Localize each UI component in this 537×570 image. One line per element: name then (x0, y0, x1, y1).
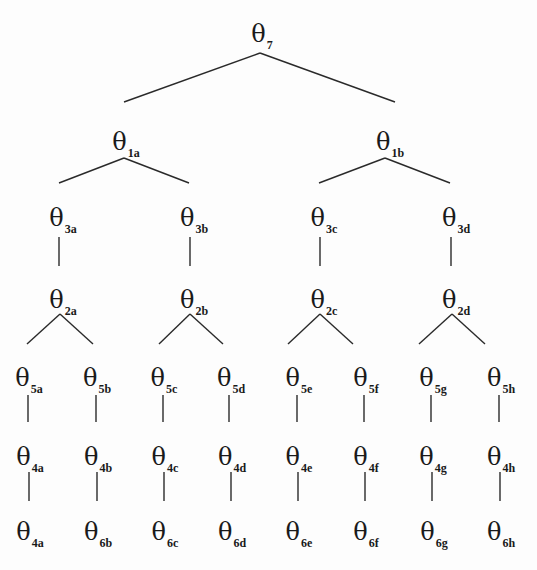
node-n4c: θ4c (152, 445, 179, 469)
node-n6d: θ6d (218, 520, 246, 544)
node-subscript: 4d (233, 461, 246, 475)
node-subscript: 5c (166, 382, 177, 396)
edge-n2c-n5f (320, 314, 353, 344)
edge-n1a-n3a (59, 158, 124, 183)
node-n6e: θ6e (286, 520, 313, 544)
node-symbol: θ (376, 128, 390, 156)
node-subscript: 3d (457, 222, 470, 236)
node-symbol: θ (442, 204, 456, 232)
node-n1a: θ1a (112, 130, 139, 154)
node-n6a: θ4a (16, 520, 43, 544)
node-subscript: 5f (369, 382, 379, 396)
node-symbol: θ (311, 286, 325, 314)
node-symbol: θ (353, 518, 367, 546)
node-n3d: θ3d (442, 206, 470, 230)
node-n7: θ7 (251, 22, 272, 46)
node-subscript: 3a (65, 222, 77, 236)
node-subscript: 7 (267, 38, 273, 52)
node-n5e: θ5e (286, 366, 313, 390)
edge-n2a-n5a (27, 314, 60, 344)
edge-n2a-n5b (60, 314, 93, 344)
node-n3c: θ3c (311, 206, 338, 230)
node-n1b: θ1b (376, 130, 404, 154)
node-symbol: θ (180, 286, 194, 314)
node-symbol: θ (487, 364, 501, 392)
node-symbol: θ (286, 364, 300, 392)
node-n2a: θ2a (49, 288, 76, 312)
edge-layer (0, 0, 537, 570)
node-symbol: θ (217, 364, 231, 392)
node-n5h: θ5h (487, 366, 515, 390)
node-n4a: θ4a (16, 445, 43, 469)
node-symbol: θ (487, 443, 501, 471)
node-n5d: θ5d (217, 366, 245, 390)
edge-n7-n1a (124, 53, 260, 102)
node-symbol: θ (442, 286, 456, 314)
node-symbol: θ (251, 20, 265, 48)
node-subscript: 6c (167, 536, 178, 550)
node-symbol: θ (152, 443, 166, 471)
edge-n2d-n5g (419, 314, 452, 344)
node-subscript: 5h (502, 382, 515, 396)
node-subscript: 1a (128, 146, 140, 160)
node-subscript: 4e (301, 461, 312, 475)
node-n2b: θ2b (180, 288, 208, 312)
node-n3b: θ3b (180, 206, 208, 230)
node-symbol: θ (49, 286, 63, 314)
node-subscript: 1b (391, 146, 404, 160)
node-subscript: 4g (435, 461, 447, 475)
node-subscript: 4h (502, 461, 515, 475)
node-subscript: 4c (167, 461, 178, 475)
node-symbol: θ (84, 443, 98, 471)
node-subscript: 5a (31, 382, 43, 396)
node-symbol: θ (286, 518, 300, 546)
node-symbol: θ (353, 443, 367, 471)
node-symbol: θ (180, 204, 194, 232)
node-subscript: 4f (369, 461, 379, 475)
node-n6b: θ6b (84, 520, 112, 544)
node-n6c: θ6c (152, 520, 179, 544)
node-symbol: θ (419, 443, 433, 471)
node-subscript: 5b (98, 382, 111, 396)
node-symbol: θ (16, 518, 30, 546)
node-n5g: θ5g (419, 366, 446, 390)
tree-diagram: θ7θ1aθ1bθ3aθ3bθ3cθ3dθ2aθ2bθ2cθ2dθ5aθ5bθ5… (0, 0, 537, 570)
node-subscript: 2d (457, 304, 470, 318)
node-subscript: 2a (65, 304, 77, 318)
node-symbol: θ (151, 364, 165, 392)
node-n2d: θ2d (442, 288, 470, 312)
node-subscript: 5e (301, 382, 312, 396)
node-n5b: θ5b (83, 366, 111, 390)
node-n4f: θ4f (353, 445, 378, 469)
edge-n2b-n5d (190, 314, 223, 344)
node-symbol: θ (152, 518, 166, 546)
node-symbol: θ (311, 204, 325, 232)
node-subscript: 4a (32, 536, 44, 550)
node-n2c: θ2c (311, 288, 338, 312)
node-n4h: θ4h (487, 445, 515, 469)
node-n4g: θ4g (419, 445, 446, 469)
node-symbol: θ (419, 364, 433, 392)
node-subscript: 6e (301, 536, 312, 550)
node-symbol: θ (112, 128, 126, 156)
node-symbol: θ (16, 443, 30, 471)
node-n4e: θ4e (286, 445, 313, 469)
edge-n2c-n5e (288, 314, 320, 344)
edge-n2d-n5h (452, 314, 485, 344)
node-symbol: θ (84, 518, 98, 546)
node-n6h: θ6h (487, 520, 515, 544)
node-n5c: θ5c (151, 366, 178, 390)
node-subscript: 3b (195, 222, 208, 236)
node-n5f: θ5f (353, 366, 378, 390)
node-subscript: 6f (369, 536, 379, 550)
node-n3a: θ3a (49, 206, 76, 230)
node-symbol: θ (286, 443, 300, 471)
edge-n7-n1b (260, 53, 395, 102)
node-symbol: θ (83, 364, 97, 392)
node-subscript: 2b (195, 304, 208, 318)
node-subscript: 6b (99, 536, 112, 550)
edge-n1a-n3b (124, 158, 189, 183)
node-subscript: 5g (435, 382, 447, 396)
node-subscript: 2c (326, 304, 337, 318)
edge-n1b-n3d (385, 158, 450, 183)
